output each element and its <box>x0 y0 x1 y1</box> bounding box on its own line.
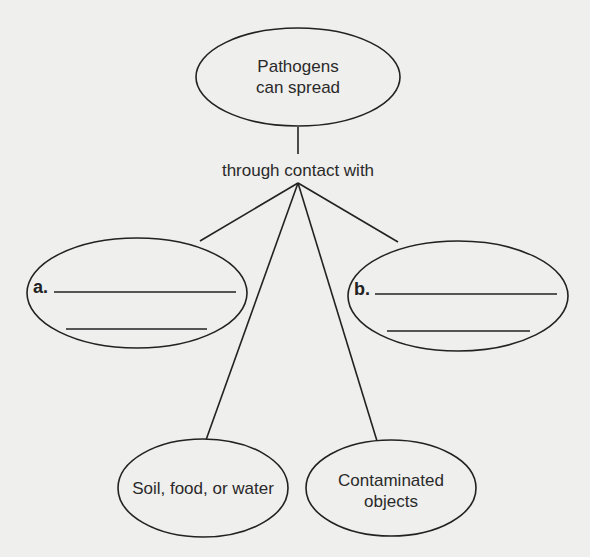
blank-label-b: b. <box>354 279 370 300</box>
root-label-line1: Pathogens <box>228 56 368 77</box>
ellipse-a <box>27 238 247 348</box>
objects-label-line2: objects <box>321 491 461 512</box>
objects-label: Contaminated objects <box>321 470 461 512</box>
objects-label-line1: Contaminated <box>321 470 461 491</box>
connector-label: through contact with <box>198 160 398 181</box>
ellipse-b <box>348 241 568 351</box>
branch-line-a <box>200 183 298 241</box>
root-label-line2: can spread <box>228 77 368 98</box>
concept-map: Pathogens can spread through contact wit… <box>0 0 590 557</box>
soil-label: Soil, food, or water <box>123 478 283 499</box>
blank-label-a: a. <box>33 277 48 298</box>
root-label: Pathogens can spread <box>228 56 368 98</box>
